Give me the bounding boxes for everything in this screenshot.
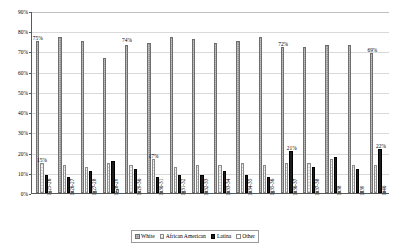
chart-legend: WhiteAfrican AmericanLatinaOther — [131, 230, 259, 243]
plot-area: 75%15%74%17%72%21%69%22% — [31, 12, 389, 194]
bar — [103, 58, 106, 193]
y-axis-tick-label: 70% — [1, 49, 28, 55]
x-axis-tick-label: 1929-30 — [136, 179, 142, 196]
legend-item[interactable]: Latina — [211, 233, 231, 240]
data-label: 72% — [278, 41, 288, 48]
bar — [81, 41, 84, 193]
chart-root: 75%15%74%17%72%21%69%22% 90%80%70%60%50%… — [0, 0, 400, 247]
x-axis-tick-label: 1938 — [336, 186, 342, 196]
data-label: 74% — [122, 37, 132, 44]
y-axis-tick — [29, 133, 32, 134]
bar — [281, 47, 284, 193]
bar-group — [189, 12, 211, 193]
bar — [325, 45, 328, 193]
bar-group — [211, 12, 233, 193]
data-label: 69% — [367, 47, 377, 54]
data-label: 75% — [33, 35, 43, 42]
bar — [374, 165, 377, 193]
bar-group — [278, 12, 300, 193]
legend-item[interactable]: White — [135, 233, 155, 240]
bar-group — [256, 12, 278, 193]
y-axis-tick — [29, 93, 32, 94]
bar — [36, 41, 39, 193]
bar — [40, 163, 43, 193]
bar — [174, 167, 177, 193]
bar-group — [367, 12, 389, 193]
legend-item[interactable]: African American — [160, 233, 206, 240]
bar — [107, 163, 110, 193]
bar — [241, 163, 244, 193]
x-axis-tick-label: 1933-34 — [225, 179, 231, 196]
y-axis-tick — [29, 113, 32, 114]
bar — [259, 37, 262, 193]
bar — [352, 165, 355, 193]
x-axis-tick-label: 1925-26 — [46, 179, 52, 196]
x-axis-tick-label: 1928-29 — [113, 179, 119, 196]
bar-group — [100, 12, 122, 193]
legend-label: White — [141, 233, 155, 240]
x-axis-tick-label: 1931-32 — [180, 179, 186, 196]
data-label: 21% — [287, 145, 297, 152]
bar — [263, 165, 266, 193]
bar — [307, 163, 310, 193]
legend-label: Latina — [217, 233, 231, 240]
y-axis-tick-label: 50% — [1, 90, 28, 96]
legend-swatch-icon — [236, 234, 241, 239]
legend-label: African American — [166, 233, 206, 240]
bar — [129, 165, 132, 193]
bar-group — [55, 12, 77, 193]
bar-group — [345, 12, 367, 193]
bar — [125, 45, 128, 193]
legend-swatch-icon — [160, 234, 165, 239]
x-axis-tick-label: 1932-33 — [203, 179, 209, 196]
bar — [147, 43, 150, 193]
bar — [192, 39, 195, 193]
y-axis-tick — [29, 174, 32, 175]
bar-group — [144, 12, 166, 193]
bar-group — [300, 12, 322, 193]
y-axis-tick-label: 90% — [1, 9, 28, 15]
bar — [370, 53, 373, 193]
bar-group — [233, 12, 255, 193]
bar-group — [78, 12, 100, 193]
data-label: 15% — [37, 157, 47, 164]
y-axis-tick-label: 10% — [1, 171, 28, 177]
bar — [285, 163, 288, 193]
bar-group — [167, 12, 189, 193]
bar — [85, 167, 88, 193]
bar — [236, 41, 239, 193]
legend-item[interactable]: Other — [236, 233, 255, 240]
x-axis: 1925-261926-271927-281928-291929-301930-… — [32, 196, 390, 230]
x-axis-tick-label: 1934-35 — [247, 179, 253, 196]
data-label: 17% — [149, 153, 159, 160]
x-axis-tick-label: 1937-38 — [314, 179, 320, 196]
x-axis-tick-label: 1927-28 — [91, 179, 97, 196]
x-axis-tick-label: 1936-37 — [292, 179, 298, 196]
bar — [218, 165, 221, 193]
bar — [303, 47, 306, 193]
bar — [330, 159, 333, 193]
bar-groups — [33, 12, 389, 193]
bar — [348, 45, 351, 193]
legend-swatch-icon — [211, 234, 216, 239]
legend-swatch-icon — [135, 234, 140, 239]
y-axis-tick-label: 30% — [1, 130, 28, 136]
bar — [196, 165, 199, 193]
y-axis-tick — [29, 73, 32, 74]
y-axis-tick-label: 40% — [1, 110, 28, 116]
bar — [214, 43, 217, 193]
y-axis-tick-label: 60% — [1, 70, 28, 76]
bar — [170, 37, 173, 193]
legend-label: Other — [242, 233, 255, 240]
y-axis-tick — [29, 32, 32, 33]
x-axis-tick-label: 1940 — [381, 186, 387, 196]
bar — [58, 37, 61, 193]
y-axis-tick — [29, 12, 32, 13]
y-axis-tick-label: 0% — [1, 191, 28, 197]
y-axis-tick-label: 80% — [1, 29, 28, 35]
x-axis-tick-label: 1935-36 — [269, 179, 275, 196]
bar-group — [322, 12, 344, 193]
data-label: 22% — [376, 143, 386, 150]
bar — [152, 159, 155, 193]
bar — [63, 165, 66, 193]
